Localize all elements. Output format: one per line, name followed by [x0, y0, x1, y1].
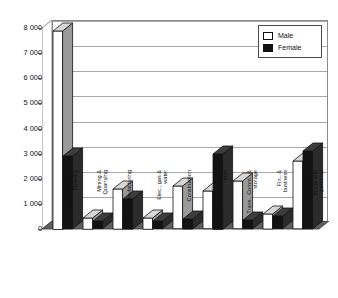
white-square-icon [263, 32, 273, 40]
x-tick-label: Construction [186, 170, 192, 232]
x-axis-labels: Agri., Fishery & ForestryMining & Quarry… [0, 232, 338, 298]
legend-item-male: Male [263, 30, 317, 41]
chart-legend: Male Female [258, 25, 322, 58]
x-tick-label: Wholesale & retail [216, 170, 228, 232]
x-tick-label: Agri., Fishery & Forestry [66, 170, 78, 232]
black-square-icon [263, 44, 273, 52]
legend-label-female: Female [278, 44, 301, 52]
bar-chart: 01 0002 0003 0004 0005 0006 0007 0008 00… [0, 0, 338, 298]
x-tick-label: Manufacturing [126, 170, 132, 232]
legend-item-female: Female [263, 42, 317, 53]
x-tick-label: Mining & Quarrying [96, 170, 108, 232]
x-tick-label: Trans., Comm., & storage [246, 170, 258, 232]
x-tick-label: Elec., gas & water [156, 170, 168, 232]
legend-label-male: Male [278, 32, 293, 40]
x-tick-label: Community, social and personal [306, 170, 324, 232]
x-tick-label: Fin., & business [276, 170, 288, 232]
